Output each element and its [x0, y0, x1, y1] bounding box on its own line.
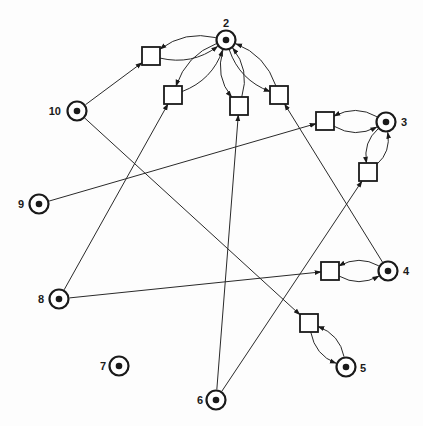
transition-t1 — [142, 47, 160, 65]
transition-t5 — [316, 112, 334, 130]
arc-p10-to-t1 — [85, 63, 142, 105]
arc-t1-to-p2 — [160, 46, 218, 60]
arc-p3-to-t6 — [366, 129, 378, 163]
place-label: 3 — [401, 116, 407, 128]
place-9: 9 — [18, 195, 49, 214]
arc-t2-to-p2 — [182, 50, 223, 92]
place-8: 8 — [38, 290, 69, 309]
place-label: 8 — [38, 293, 44, 305]
place-label: 5 — [360, 362, 366, 374]
place-label: 7 — [100, 360, 106, 372]
arc-p8-to-t7 — [69, 272, 321, 298]
place-7: 7 — [100, 357, 129, 376]
token-icon — [213, 397, 220, 404]
place-10: 10 — [49, 102, 87, 121]
transition-t3 — [230, 97, 248, 115]
token-icon — [385, 268, 392, 275]
transition-t8 — [300, 314, 318, 332]
place-2: 2 — [217, 17, 236, 50]
petri-net-diagram: 2345678910 — [0, 0, 423, 426]
place-5: 5 — [337, 358, 367, 377]
transition-t2 — [164, 86, 182, 104]
token-icon — [56, 296, 63, 303]
arc-p6-to-t3 — [217, 115, 238, 390]
arc-t6-to-p3 — [377, 132, 388, 164]
arc-p4-to-t7 — [339, 260, 379, 266]
token-icon — [343, 364, 350, 371]
petri-net-canvas: 2345678910 — [0, 0, 423, 426]
place-6: 6 — [197, 391, 226, 410]
place-label: 6 — [197, 394, 203, 406]
arc-p3-to-t5 — [334, 110, 377, 116]
arc-p2-to-t2 — [176, 44, 216, 86]
transition-t6 — [359, 163, 377, 181]
token-icon — [36, 201, 43, 208]
arc-p9-to-t5 — [49, 124, 316, 201]
arc-p2-to-t3 — [220, 50, 231, 97]
arc-t5-to-p3 — [334, 126, 377, 132]
arc-t7-to-p4 — [339, 276, 379, 282]
arc-t3-to-p2 — [233, 48, 245, 97]
arc-t8-to-p5 — [311, 332, 336, 363]
arc-p5-to-t8 — [318, 326, 344, 356]
arc-p8-to-t2 — [64, 104, 168, 290]
token-icon — [383, 119, 390, 126]
place-label: 9 — [18, 198, 24, 210]
arc-p2-to-t4 — [229, 50, 270, 92]
place-label: 10 — [49, 105, 61, 117]
token-icon — [116, 363, 123, 370]
token-icon — [74, 108, 81, 115]
place-label: 4 — [403, 265, 410, 277]
place-4: 4 — [379, 262, 411, 281]
arc-p2-to-t1 — [160, 36, 216, 50]
arcs-layer — [49, 36, 388, 392]
token-icon — [223, 37, 230, 44]
transition-t7 — [321, 262, 339, 280]
place-label: 2 — [223, 17, 229, 29]
transition-t4 — [270, 86, 288, 104]
place-3: 3 — [377, 113, 408, 132]
nodes-layer: 2345678910 — [18, 17, 410, 410]
